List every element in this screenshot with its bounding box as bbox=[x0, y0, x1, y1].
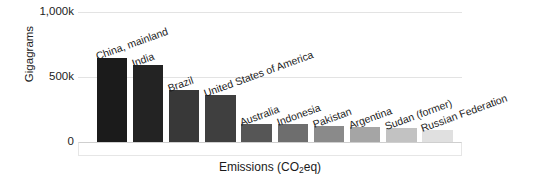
x-axis-title-subscript: 2 bbox=[299, 165, 304, 175]
bar-united-states-of-america[interactable] bbox=[205, 95, 236, 142]
bar-brazil[interactable] bbox=[169, 90, 200, 142]
y-axis-tick-labels: 1,000k 500k 0 bbox=[6, 0, 74, 188]
plot-area: China, mainlandIndiaBrazilUnited States … bbox=[78, 12, 462, 142]
x-axis-title-pre: Emissions (CO bbox=[219, 160, 299, 174]
x-axis-title: Emissions (CO2eq) bbox=[78, 160, 462, 174]
y-tick-label-1000k: 1,000k bbox=[8, 6, 74, 18]
bar-india[interactable] bbox=[133, 65, 164, 142]
x-axis-title-post: eq) bbox=[304, 160, 321, 174]
y-tick-label-500k: 500k bbox=[8, 71, 74, 83]
bar-china-mainland[interactable] bbox=[97, 58, 128, 142]
bar-series: China, mainlandIndiaBrazilUnited States … bbox=[78, 12, 462, 142]
axis-frame bbox=[78, 142, 462, 156]
y-tick-label-0: 0 bbox=[8, 136, 74, 148]
bar-label-united-states-of-america: United States of America bbox=[203, 49, 315, 98]
bar-chart: Gigagrams 1,000k 500k 0 China, mainlandI… bbox=[0, 0, 533, 188]
